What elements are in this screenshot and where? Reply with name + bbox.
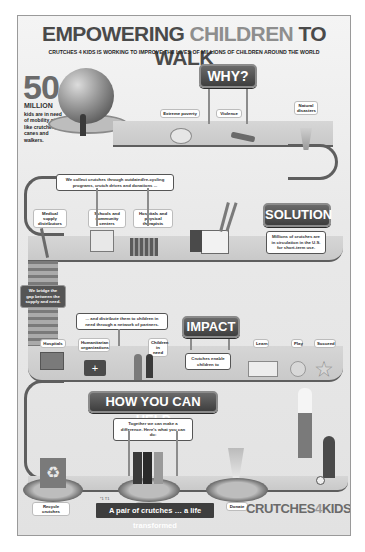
recycle-bin-icon: ♻ bbox=[40, 458, 66, 488]
child-with-crutches-icon bbox=[80, 114, 86, 136]
children-icon-2 bbox=[146, 354, 153, 378]
footnote: *1 T1 bbox=[100, 496, 110, 501]
box-lid-icon bbox=[190, 230, 202, 252]
why-sign: WHY? bbox=[199, 64, 257, 88]
help-post-left bbox=[128, 431, 130, 476]
why-sign-post-left bbox=[208, 86, 210, 124]
piggy-bank-icon bbox=[170, 128, 192, 144]
impact-outcome-label: Succeed bbox=[314, 339, 336, 348]
enable-callout: Crutches enable children to bbox=[185, 353, 231, 370]
distribute-callout: ... and distribute them to children in n… bbox=[76, 313, 168, 330]
solution-fact-callout: Millions of crutches are in circulation … bbox=[266, 231, 326, 254]
help-post-right bbox=[176, 431, 178, 476]
children-icon bbox=[134, 354, 142, 380]
boy-playing-soccer-icon bbox=[323, 436, 335, 478]
ball-icon bbox=[290, 361, 306, 377]
solution-source-label: Hospitals and physical therapists bbox=[133, 209, 173, 228]
hospital-icon bbox=[40, 352, 64, 370]
solution-source-label: Medical supply distributors bbox=[33, 209, 67, 228]
impact-partner-label: Humanitarian organizations bbox=[78, 338, 110, 352]
girl-with-crutches-icon bbox=[298, 388, 312, 458]
title-part-1: EMPOWERING bbox=[42, 22, 189, 45]
distribute-post bbox=[118, 329, 120, 347]
money-icon bbox=[228, 448, 244, 478]
impact-outcome-label: Learn bbox=[253, 339, 269, 348]
bridge-callout: We bridge the gap between the supply and… bbox=[20, 285, 66, 308]
school-icon bbox=[90, 230, 114, 252]
help-sign: HOW YOU CAN HELP bbox=[88, 391, 218, 413]
why-reason-label: Natural disasters bbox=[294, 101, 318, 115]
logo-part-1: CRUTCHES bbox=[246, 501, 315, 516]
why-reason-label: Extreme poverty bbox=[160, 109, 200, 118]
poster-subtitle: CRUTCHES 4 KIDS IS WORKING TO IMPROVE TH… bbox=[18, 49, 350, 55]
hospital-building-icon bbox=[130, 238, 158, 256]
globe-icon bbox=[58, 68, 114, 124]
impact-sign: IMPACT bbox=[182, 316, 240, 338]
impact-outcome-label: Play bbox=[291, 339, 303, 348]
infographic-poster: EMPOWERING CHILDREN TO WALK CRUTCHES 4 K… bbox=[17, 15, 351, 536]
collect-callout: We collect crutches through outdated/re-… bbox=[56, 174, 174, 191]
impact-heading: IMPACT bbox=[187, 319, 236, 334]
star-icon: ★ bbox=[315, 357, 333, 381]
soccer-ball-icon bbox=[316, 476, 325, 485]
first-aid-kit-icon: + bbox=[84, 360, 106, 376]
book-icon bbox=[248, 361, 278, 377]
callout-post-left bbox=[96, 188, 98, 226]
help-action-label: Donate bbox=[226, 502, 248, 511]
impact-partner-label: Hospitals bbox=[40, 339, 66, 348]
poster-title: EMPOWERING CHILDREN TO WALK bbox=[18, 22, 350, 70]
why-heading: WHY? bbox=[207, 68, 248, 84]
why-sign-post-right bbox=[246, 86, 248, 124]
solution-source-label: Schools and community centers bbox=[88, 209, 126, 228]
donation-box-icon bbox=[201, 230, 229, 254]
logo-part-3: KIDS bbox=[322, 501, 351, 516]
crutches4kids-logo: CRUTCHES4KIDS bbox=[246, 501, 351, 516]
solution-sign: SOLUTION bbox=[263, 203, 331, 227]
logo-part-2: 4 bbox=[315, 501, 322, 516]
volunteers-icon bbox=[133, 452, 163, 484]
why-reason-label: Violence bbox=[216, 109, 242, 118]
help-intro-callout: Together we can make a difference. Here'… bbox=[113, 418, 193, 441]
donate-pedestal bbox=[206, 478, 268, 502]
stat-unit: MILLION bbox=[24, 102, 53, 109]
solution-heading: SOLUTION bbox=[265, 207, 332, 222]
title-highlight: CHILDREN bbox=[189, 22, 293, 45]
stat-number: 50 bbox=[23, 72, 59, 102]
help-action-label: Recycle crutches bbox=[32, 502, 70, 516]
callout-post-right bbox=[147, 188, 149, 226]
tagline-banner: A pair of crutches … a life transformed bbox=[96, 503, 214, 518]
path-curve-1 bbox=[288, 144, 338, 180]
